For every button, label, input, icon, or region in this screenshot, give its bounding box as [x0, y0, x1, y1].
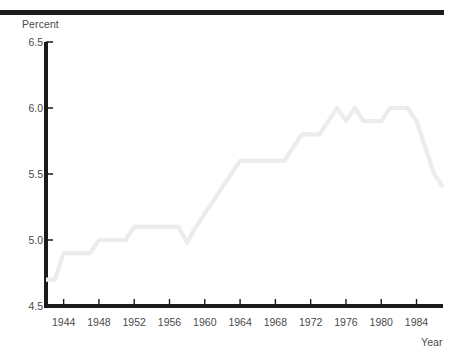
chart-figure: Percent Year 6.5 6.0 5.5 5.0 4.5 1944 19…	[0, 0, 465, 357]
axes-group	[44, 42, 443, 306]
plot-area	[0, 0, 465, 357]
data-series-line	[46, 108, 443, 280]
